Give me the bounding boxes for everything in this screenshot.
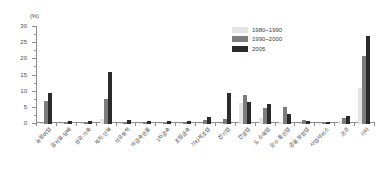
y-axis-tick-label: 0 bbox=[24, 120, 27, 126]
x-axis-tick bbox=[215, 123, 216, 126]
bar bbox=[326, 122, 330, 124]
bar-group bbox=[294, 27, 314, 124]
x-axis-category-label: 운수·통신업 bbox=[269, 127, 291, 149]
x-axis-category-label: 농림어업 bbox=[35, 127, 53, 145]
bar-chart: (%) 051015202530 농림어업음식료·담배섬유·가죽제지·인쇄석유화… bbox=[0, 0, 379, 170]
bar bbox=[88, 121, 92, 124]
bar bbox=[287, 114, 291, 124]
plot-area: 051015202530 bbox=[36, 25, 374, 124]
x-axis-tick bbox=[96, 123, 97, 126]
x-axis-category-label: 조립금속 bbox=[174, 127, 192, 145]
x-axis-tick bbox=[175, 123, 176, 126]
x-axis-tick bbox=[235, 123, 236, 126]
bar bbox=[227, 93, 231, 124]
x-axis-tick bbox=[135, 123, 136, 126]
x-axis-tick bbox=[255, 123, 256, 126]
legend-swatch bbox=[232, 46, 248, 52]
x-axis-tick bbox=[155, 123, 156, 126]
x-axis-category-label: 금융·보험업 bbox=[289, 127, 311, 149]
bar bbox=[306, 121, 310, 124]
y-axis-tick-label: 10 bbox=[20, 88, 27, 94]
bar bbox=[127, 120, 131, 124]
x-axis-tick bbox=[275, 123, 276, 126]
x-axis-tick bbox=[195, 123, 196, 126]
bar-group bbox=[135, 27, 155, 124]
x-axis-tick bbox=[36, 123, 37, 126]
y-axis-tick-label: 5 bbox=[24, 104, 27, 110]
bar-group bbox=[314, 27, 334, 124]
x-axis-tick bbox=[76, 123, 77, 126]
y-axis-tick-label: 25 bbox=[20, 39, 27, 45]
legend-item: 1980~1990 bbox=[232, 26, 282, 33]
x-axis-category-label: 섬유·가죽 bbox=[74, 127, 93, 146]
x-axis-tick bbox=[314, 123, 315, 126]
bar-group bbox=[195, 27, 215, 124]
bar bbox=[187, 121, 191, 124]
x-axis-tick bbox=[56, 123, 57, 126]
bar bbox=[68, 121, 72, 124]
bar-group bbox=[56, 27, 76, 124]
x-axis-tick bbox=[294, 123, 295, 126]
bar-group bbox=[354, 27, 374, 124]
x-axis-tick bbox=[354, 123, 355, 126]
legend-label: 1980~1990 bbox=[252, 27, 282, 33]
y-axis-tick-label: 20 bbox=[20, 55, 27, 61]
x-axis-category-label: 사업서비스 bbox=[310, 127, 331, 148]
legend-item: 2005 bbox=[232, 45, 282, 52]
bar-group bbox=[334, 27, 354, 124]
x-axis-tick bbox=[116, 123, 117, 126]
x-axis-category-label: 공공 bbox=[340, 127, 351, 138]
x-axis-category-label: 도·소매업 bbox=[253, 127, 272, 146]
bar-group bbox=[76, 27, 96, 124]
bar bbox=[167, 121, 171, 124]
legend-item: 1990~2000 bbox=[232, 36, 282, 43]
bar-group bbox=[116, 27, 136, 124]
x-axis-category-label: 1차금속 bbox=[156, 127, 172, 143]
chart-legend: 1980~19901990~20002005 bbox=[232, 26, 282, 52]
bar bbox=[48, 93, 52, 124]
bar-group bbox=[155, 27, 175, 124]
legend-label: 2005 bbox=[252, 46, 265, 52]
bar bbox=[207, 117, 211, 124]
bar-group bbox=[96, 27, 116, 124]
x-axis-category-label: 비금속광물 bbox=[131, 127, 152, 148]
bar-group bbox=[36, 27, 56, 124]
x-axis-category-label: 제지·인쇄 bbox=[94, 127, 113, 146]
bar bbox=[366, 36, 370, 124]
bar bbox=[147, 121, 151, 124]
x-axis-category-label: 기타 bbox=[360, 127, 371, 138]
x-axis-tick bbox=[374, 123, 375, 126]
x-axis-category-label: 석유화학 bbox=[115, 127, 133, 145]
x-axis-category-label: 기타제조업 bbox=[191, 127, 212, 148]
bar bbox=[108, 72, 112, 124]
x-axis-tick bbox=[334, 123, 335, 126]
x-axis-category-label: 건설업 bbox=[237, 127, 251, 141]
legend-swatch bbox=[232, 36, 248, 42]
bar bbox=[267, 104, 271, 124]
legend-label: 1990~2000 bbox=[252, 36, 282, 42]
bar bbox=[346, 116, 350, 124]
bar-group bbox=[175, 27, 195, 124]
y-axis-unit-label: (%) bbox=[30, 13, 39, 19]
y-axis-tick-label: 15 bbox=[20, 72, 27, 78]
x-axis-category-label: 전기업 bbox=[217, 127, 231, 141]
legend-swatch bbox=[232, 27, 248, 33]
x-axis-category-label: 음식료·담배 bbox=[50, 127, 72, 149]
bar bbox=[247, 102, 251, 124]
y-axis-tick-label: 30 bbox=[20, 23, 27, 29]
